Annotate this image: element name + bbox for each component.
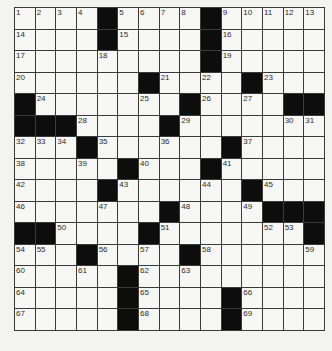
grid-cell[interactable]: [201, 202, 221, 223]
grid-cell[interactable]: [98, 223, 118, 244]
grid-cell[interactable]: 25: [139, 94, 159, 115]
grid-cell[interactable]: 62: [139, 266, 159, 287]
grid-cell[interactable]: 4: [77, 8, 97, 29]
grid-cell[interactable]: 36: [160, 137, 180, 158]
grid-cell[interactable]: 54: [15, 245, 35, 266]
grid-cell[interactable]: [118, 73, 138, 94]
grid-cell[interactable]: [263, 266, 283, 287]
grid-cell[interactable]: 37: [242, 137, 262, 158]
grid-cell[interactable]: [36, 266, 56, 287]
grid-cell[interactable]: [139, 180, 159, 201]
grid-cell[interactable]: [160, 30, 180, 51]
grid-cell[interactable]: [36, 202, 56, 223]
grid-cell[interactable]: [242, 159, 262, 180]
grid-cell[interactable]: [118, 94, 138, 115]
grid-cell[interactable]: [180, 159, 200, 180]
grid-cell[interactable]: [160, 309, 180, 330]
grid-cell[interactable]: 33: [36, 137, 56, 158]
grid-cell[interactable]: [304, 51, 324, 72]
grid-cell[interactable]: [118, 116, 138, 137]
grid-cell[interactable]: [222, 116, 242, 137]
grid-cell[interactable]: 50: [56, 223, 76, 244]
grid-cell[interactable]: [56, 94, 76, 115]
grid-cell[interactable]: 3: [56, 8, 76, 29]
grid-cell[interactable]: 12: [284, 8, 304, 29]
grid-cell[interactable]: [56, 202, 76, 223]
grid-cell[interactable]: 15: [118, 30, 138, 51]
grid-cell[interactable]: [263, 116, 283, 137]
grid-cell[interactable]: [118, 51, 138, 72]
grid-cell[interactable]: 27: [242, 94, 262, 115]
grid-cell[interactable]: [222, 223, 242, 244]
grid-cell[interactable]: [263, 137, 283, 158]
grid-cell[interactable]: [56, 245, 76, 266]
grid-cell[interactable]: 55: [36, 245, 56, 266]
grid-cell[interactable]: [77, 288, 97, 309]
grid-cell[interactable]: [180, 180, 200, 201]
grid-cell[interactable]: 20: [15, 73, 35, 94]
grid-cell[interactable]: [36, 51, 56, 72]
grid-cell[interactable]: [201, 309, 221, 330]
grid-cell[interactable]: [201, 223, 221, 244]
grid-cell[interactable]: [242, 266, 262, 287]
grid-cell[interactable]: 43: [118, 180, 138, 201]
grid-cell[interactable]: 13: [304, 8, 324, 29]
grid-cell[interactable]: [242, 245, 262, 266]
grid-cell[interactable]: 40: [139, 159, 159, 180]
grid-cell[interactable]: [139, 137, 159, 158]
grid-cell[interactable]: [263, 159, 283, 180]
grid-cell[interactable]: 38: [15, 159, 35, 180]
grid-cell[interactable]: 60: [15, 266, 35, 287]
grid-cell[interactable]: [304, 159, 324, 180]
grid-cell[interactable]: [36, 288, 56, 309]
grid-cell[interactable]: [201, 137, 221, 158]
grid-cell[interactable]: [77, 202, 97, 223]
grid-cell[interactable]: [56, 30, 76, 51]
grid-cell[interactable]: 16: [222, 30, 242, 51]
grid-cell[interactable]: 48: [180, 202, 200, 223]
grid-cell[interactable]: 56: [98, 245, 118, 266]
grid-cell[interactable]: 24: [36, 94, 56, 115]
grid-cell[interactable]: [180, 223, 200, 244]
grid-cell[interactable]: [304, 309, 324, 330]
grid-cell[interactable]: 22: [201, 73, 221, 94]
grid-cell[interactable]: [180, 73, 200, 94]
grid-cell[interactable]: 67: [15, 309, 35, 330]
grid-cell[interactable]: [284, 73, 304, 94]
grid-cell[interactable]: 26: [201, 94, 221, 115]
grid-cell[interactable]: [139, 30, 159, 51]
grid-cell[interactable]: 35: [98, 137, 118, 158]
grid-cell[interactable]: [160, 159, 180, 180]
grid-cell[interactable]: 64: [15, 288, 35, 309]
grid-cell[interactable]: [56, 180, 76, 201]
grid-cell[interactable]: [98, 94, 118, 115]
grid-cell[interactable]: [304, 73, 324, 94]
grid-cell[interactable]: [98, 266, 118, 287]
grid-cell[interactable]: 52: [263, 223, 283, 244]
grid-cell[interactable]: [284, 30, 304, 51]
grid-cell[interactable]: [118, 223, 138, 244]
grid-cell[interactable]: [77, 51, 97, 72]
grid-cell[interactable]: [98, 159, 118, 180]
grid-cell[interactable]: 31: [304, 116, 324, 137]
grid-cell[interactable]: [263, 30, 283, 51]
grid-cell[interactable]: [98, 309, 118, 330]
grid-cell[interactable]: 32: [15, 137, 35, 158]
grid-cell[interactable]: [284, 309, 304, 330]
grid-cell[interactable]: [263, 309, 283, 330]
grid-cell[interactable]: 45: [263, 180, 283, 201]
grid-cell[interactable]: [160, 94, 180, 115]
grid-cell[interactable]: [242, 223, 262, 244]
grid-cell[interactable]: [222, 73, 242, 94]
grid-cell[interactable]: [118, 202, 138, 223]
grid-cell[interactable]: [56, 266, 76, 287]
grid-cell[interactable]: 46: [15, 202, 35, 223]
grid-cell[interactable]: 65: [139, 288, 159, 309]
grid-cell[interactable]: [118, 137, 138, 158]
grid-cell[interactable]: [98, 116, 118, 137]
grid-cell[interactable]: 19: [222, 51, 242, 72]
grid-cell[interactable]: [118, 245, 138, 266]
grid-cell[interactable]: [263, 94, 283, 115]
grid-cell[interactable]: 59: [304, 245, 324, 266]
grid-cell[interactable]: 42: [15, 180, 35, 201]
